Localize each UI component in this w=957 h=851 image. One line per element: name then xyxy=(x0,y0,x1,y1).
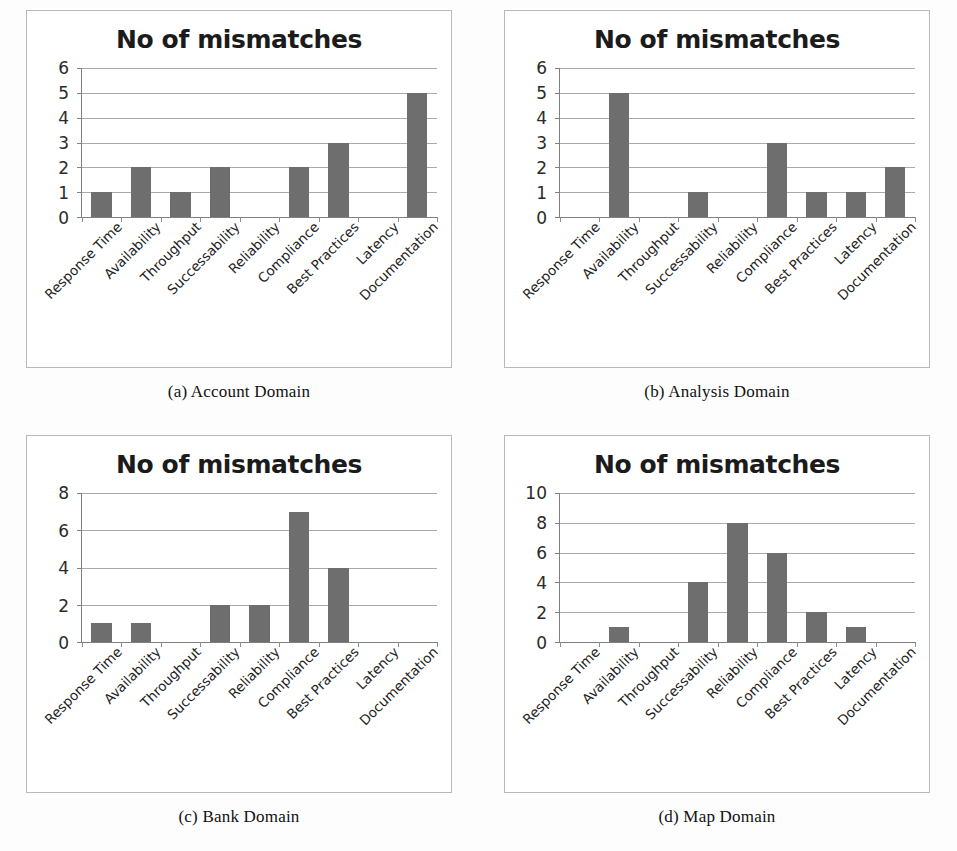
subfigure-caption: (a) Account Domain xyxy=(168,382,310,402)
bar-slot xyxy=(797,493,836,642)
bar-slot xyxy=(161,68,200,217)
y-tick-label: 6 xyxy=(58,522,69,539)
bar-slot xyxy=(757,493,796,642)
chart-panel-c: No of mismatches02468Response TimeAvaila… xyxy=(26,435,452,793)
bar-slot xyxy=(797,68,836,217)
figure-subpanel-c: No of mismatches02468Response TimeAvaila… xyxy=(0,425,478,850)
y-tick-label: 4 xyxy=(58,560,69,577)
plot-area: 0123456 xyxy=(41,68,437,218)
bar-slot xyxy=(398,68,437,217)
plot-canvas xyxy=(81,493,437,643)
bar-slot xyxy=(358,68,397,217)
bar-slot xyxy=(876,68,915,217)
bar-slot xyxy=(876,493,915,642)
bar-slot xyxy=(560,493,599,642)
bar xyxy=(767,553,788,642)
bar-slot xyxy=(678,68,717,217)
bar xyxy=(328,568,349,643)
y-tick-label: 8 xyxy=(58,485,69,502)
y-tick-label: 4 xyxy=(536,575,547,592)
bar xyxy=(328,143,349,218)
figure-subpanel-a: No of mismatches0123456Response TimeAvai… xyxy=(0,0,478,425)
bar xyxy=(289,167,310,217)
bar-slot xyxy=(836,68,875,217)
figure-grid: No of mismatches0123456Response TimeAvai… xyxy=(0,0,957,851)
bar-series xyxy=(560,493,915,642)
bar xyxy=(210,167,231,217)
bar xyxy=(688,192,709,217)
x-tick-mark xyxy=(915,217,916,222)
plot-area: 02468 xyxy=(41,493,437,643)
y-tick-label: 5 xyxy=(58,85,69,102)
chart-title: No of mismatches xyxy=(27,27,451,52)
y-tick-label: 2 xyxy=(58,597,69,614)
bar-slot xyxy=(161,493,200,642)
plot-canvas xyxy=(81,68,437,218)
x-axis-labels: Response TimeAvailabilityThroughputSucce… xyxy=(41,643,437,763)
plot-area: 0123456 xyxy=(519,68,915,218)
subfigure-caption: (c) Bank Domain xyxy=(178,807,299,827)
x-axis-labels: Response TimeAvailabilityThroughputSucce… xyxy=(41,218,437,338)
bar-slot xyxy=(200,493,239,642)
y-tick-label: 2 xyxy=(536,605,547,622)
x-axis-labels: Response TimeAvailabilityThroughputSucce… xyxy=(519,218,915,338)
y-tick-label: 1 xyxy=(58,185,69,202)
chart-panel-b: No of mismatches0123456Response TimeAvai… xyxy=(504,10,930,368)
chart-panel-a: No of mismatches0123456Response TimeAvai… xyxy=(26,10,452,368)
bar-slot xyxy=(639,493,678,642)
bar xyxy=(806,612,827,642)
x-axis-labels: Response TimeAvailabilityThroughputSucce… xyxy=(519,643,915,763)
bar xyxy=(131,167,152,217)
x-tick-mark xyxy=(915,642,916,647)
bar xyxy=(609,627,630,642)
figure-subpanel-d: No of mismatches0246810Response TimeAvai… xyxy=(478,425,956,850)
bar-slot xyxy=(319,68,358,217)
y-tick-label: 10 xyxy=(525,485,547,502)
bar-slot xyxy=(121,68,160,217)
bar-slot xyxy=(718,68,757,217)
bar-slot xyxy=(200,68,239,217)
bar xyxy=(91,623,112,642)
y-tick-label: 3 xyxy=(536,135,547,152)
bar xyxy=(170,192,191,217)
y-axis: 0123456 xyxy=(41,68,75,218)
y-tick-label: 6 xyxy=(536,545,547,562)
y-axis: 0123456 xyxy=(519,68,553,218)
subfigure-caption: (b) Analysis Domain xyxy=(644,382,789,402)
bar xyxy=(131,623,152,642)
chart-title: No of mismatches xyxy=(505,452,929,477)
bar-slot xyxy=(599,68,638,217)
chart-title: No of mismatches xyxy=(27,452,451,477)
bar-slot xyxy=(718,493,757,642)
y-axis: 0246810 xyxy=(519,493,553,643)
subfigure-caption: (d) Map Domain xyxy=(658,807,775,827)
y-tick-label: 6 xyxy=(536,60,547,77)
bar-slot xyxy=(240,68,279,217)
bar-slot xyxy=(398,493,437,642)
plot-area: 0246810 xyxy=(519,493,915,643)
bar-slot xyxy=(240,493,279,642)
bar xyxy=(289,512,310,642)
y-tick-label: 2 xyxy=(536,160,547,177)
bar xyxy=(249,605,270,642)
x-tick-mark xyxy=(437,217,438,222)
plot-canvas xyxy=(559,493,915,643)
bar-slot xyxy=(639,68,678,217)
bar-series xyxy=(560,68,915,217)
bar-slot xyxy=(599,493,638,642)
bar xyxy=(727,523,748,642)
chart-title: No of mismatches xyxy=(505,27,929,52)
y-tick-label: 1 xyxy=(536,185,547,202)
bar-slot xyxy=(358,493,397,642)
bar xyxy=(846,192,867,217)
y-tick-label: 3 xyxy=(58,135,69,152)
bar-slot xyxy=(82,493,121,642)
bar-slot xyxy=(279,68,318,217)
bar xyxy=(91,192,112,217)
bar xyxy=(210,605,231,642)
bar-slot xyxy=(279,493,318,642)
y-tick-label: 4 xyxy=(58,110,69,127)
bar xyxy=(806,192,827,217)
bar-slot xyxy=(757,68,796,217)
bar-slot xyxy=(121,493,160,642)
